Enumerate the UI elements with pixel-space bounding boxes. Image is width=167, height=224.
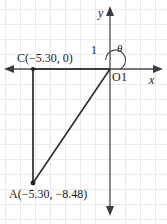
- x-tick-label-1: 1: [121, 70, 127, 84]
- x-axis-arrow-right: [153, 65, 163, 73]
- y-axis-arrow-down: [106, 206, 114, 216]
- angle-arc-theta: [106, 50, 126, 69]
- angle-theta-label: θ: [117, 42, 123, 54]
- x-axis-label: x: [148, 73, 155, 87]
- y-tick-label-1: 1: [91, 43, 97, 57]
- triangle-segments: [33, 69, 110, 183]
- y-axis-arrow-up: [106, 6, 114, 16]
- y-axis-label: y: [97, 6, 104, 20]
- segment-OA: [33, 69, 110, 183]
- figure-container: C(−5.30, 0) A(−5.30, −8.48) 1 θ O 1 x y: [0, 0, 167, 224]
- point-A-label: A(−5.30, −8.48): [9, 187, 87, 201]
- origin-label-O: O: [112, 70, 121, 84]
- point-C-label: C(−5.30, 0): [17, 51, 73, 65]
- point-A-marker[interactable]: [31, 181, 36, 186]
- coordinate-plane-figure: C(−5.30, 0) A(−5.30, −8.48) 1 θ O 1 x y: [0, 0, 167, 224]
- y-axis: [106, 6, 114, 216]
- point-C-marker[interactable]: [31, 67, 35, 71]
